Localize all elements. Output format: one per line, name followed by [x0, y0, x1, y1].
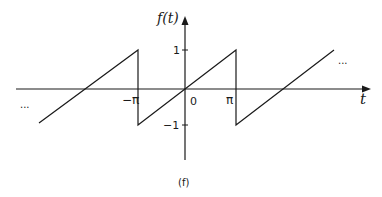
sawtooth-curve — [39, 50, 334, 125]
ellipsis-right: ... — [338, 55, 348, 66]
ellipsis-left: ... — [20, 99, 30, 110]
y-axis-label: f(t) — [156, 10, 179, 26]
x-tick-label-pi: π — [226, 93, 233, 107]
sawtooth-chart: f(t) t −π 0 π 1 −1 ... ... (f) — [0, 0, 382, 197]
y-tick-label-neg1: −1 — [163, 119, 179, 132]
x-tick-label-neg-pi: −π — [122, 93, 139, 107]
y-axis-arrow-icon — [182, 16, 189, 25]
figure-caption: (f) — [178, 177, 189, 188]
x-tick-label-zero: 0 — [190, 95, 197, 108]
y-tick-label-1: 1 — [173, 44, 180, 57]
x-axis-label: t — [360, 90, 367, 108]
